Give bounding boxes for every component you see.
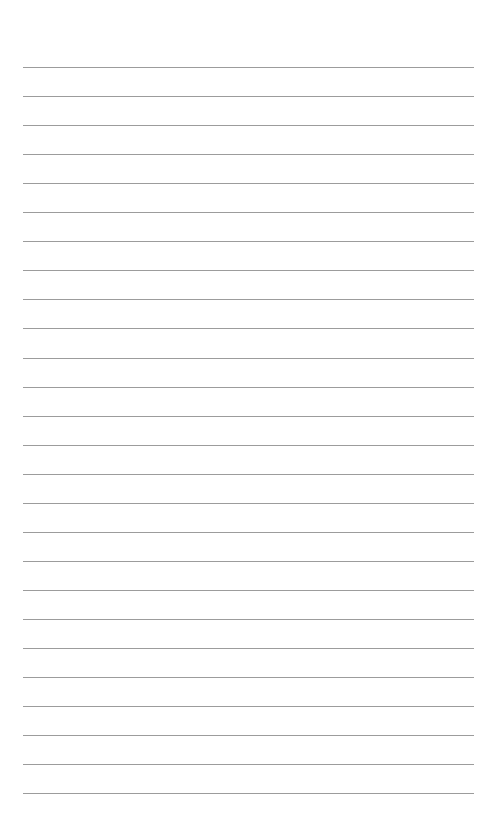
ruled-line <box>23 561 474 562</box>
ruled-line <box>23 270 474 271</box>
ruled-line <box>23 648 474 649</box>
ruled-line <box>23 154 474 155</box>
ruled-line <box>23 619 474 620</box>
ruled-line <box>23 241 474 242</box>
ruled-line <box>23 299 474 300</box>
ruled-line <box>23 474 474 475</box>
ruled-line <box>23 67 474 68</box>
ruled-line <box>23 328 474 329</box>
ruled-line <box>23 706 474 707</box>
ruled-line <box>23 183 474 184</box>
ruled-line <box>23 445 474 446</box>
ruled-line <box>23 358 474 359</box>
ruled-line <box>23 793 474 794</box>
ruled-line <box>23 96 474 97</box>
top-text-remnant <box>180 0 500 4</box>
ruled-line <box>23 735 474 736</box>
ruled-line <box>23 764 474 765</box>
ruled-line <box>23 416 474 417</box>
ruled-line <box>23 503 474 504</box>
ruled-line <box>23 212 474 213</box>
lined-paper-page <box>0 0 500 831</box>
ruled-line <box>23 125 474 126</box>
ruled-line <box>23 387 474 388</box>
ruled-line <box>23 677 474 678</box>
ruled-line <box>23 532 474 533</box>
ruled-line <box>23 590 474 591</box>
